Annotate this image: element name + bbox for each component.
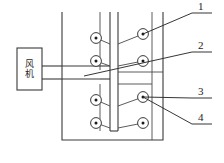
diagram-canvas: 1 2 3 4 (0, 0, 224, 163)
callout-leader-1 (143, 13, 212, 34)
central-draft-tube (110, 12, 118, 131)
probe-lower-right (118, 92, 148, 106)
fan-housing (17, 48, 42, 90)
callout-label-3: 3 (198, 85, 204, 97)
callout-label-4: 4 (198, 111, 204, 123)
probe-upper-left (91, 56, 110, 67)
probe-bottom-right (118, 118, 148, 129)
callout-leader-3 (143, 97, 212, 98)
probe-top-right (118, 29, 148, 44)
internal-baffles (118, 72, 163, 84)
technical-diagram: 1 2 3 4 风 机 (0, 0, 224, 163)
callout-label-2: 2 (198, 39, 204, 51)
probe-bottom-left (91, 118, 110, 129)
callout-label-1: 1 (198, 0, 204, 12)
